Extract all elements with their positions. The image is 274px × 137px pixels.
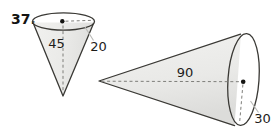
problem-number: 37. bbox=[11, 11, 36, 27]
geometry-problem-figure: 37. 45 20 90 30 bbox=[0, 0, 274, 137]
right-cone-radius-dashed-line bbox=[240, 85, 243, 124]
right-cone: 90 30 bbox=[99, 33, 271, 127]
right-cone-center-dot bbox=[241, 80, 246, 85]
right-cone-body bbox=[99, 34, 241, 126]
left-cone-height-label: 45 bbox=[48, 36, 65, 51]
left-cone-center-dot bbox=[60, 19, 64, 23]
left-cone-radius-dashed-line bbox=[66, 20, 94, 21]
left-cone-radius-label: 20 bbox=[90, 39, 107, 54]
left-cone: 45 20 bbox=[33, 13, 107, 96]
cones-diagram: 37. 45 20 90 30 bbox=[0, 0, 274, 137]
right-cone-radius-label: 30 bbox=[254, 111, 271, 126]
right-cone-axis-label: 90 bbox=[177, 65, 194, 80]
